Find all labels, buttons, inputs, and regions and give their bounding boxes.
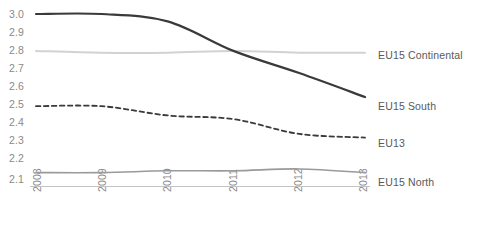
series-label-north: EU15 North: [378, 176, 434, 188]
line-chart: 3.0 2.9 2.8 2.7 2.6 2.5 2.4 2.3 2.2 2.1 …: [0, 0, 479, 233]
series-label-continental: EU15 Continental: [378, 49, 463, 61]
plot-area: [0, 0, 479, 233]
series-label-south: EU15 South: [378, 100, 436, 112]
series-line-eu15-north: [36, 169, 365, 173]
series-line-eu13: [36, 106, 365, 138]
series-line-eu15-south: [36, 13, 365, 97]
series-line-eu15-continental: [36, 51, 365, 53]
series-label-eu13: EU13: [378, 137, 405, 149]
